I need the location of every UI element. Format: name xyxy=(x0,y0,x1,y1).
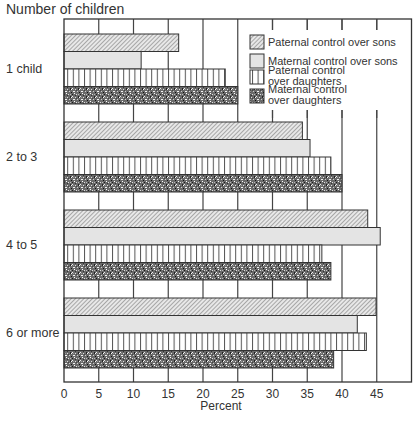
legend-swatch xyxy=(250,89,264,103)
bar xyxy=(64,210,368,228)
bar xyxy=(64,157,331,175)
y-tick-label: 2 to 3 xyxy=(6,150,37,164)
legend-label: over daughters xyxy=(268,94,342,106)
bar xyxy=(64,351,334,369)
legend-swatch xyxy=(250,70,264,84)
bar xyxy=(64,298,376,316)
x-tick-label: 10 xyxy=(127,387,141,401)
x-tick-label: 30 xyxy=(266,387,280,401)
x-tick-label: 5 xyxy=(95,387,102,401)
bar xyxy=(64,263,331,281)
legend: Paternal control over sonsMaternal contr… xyxy=(246,19,410,118)
bar xyxy=(64,52,141,70)
bar xyxy=(64,122,302,140)
x-axis-label: Percent xyxy=(200,399,242,413)
y-tick-label: 4 to 5 xyxy=(6,238,37,252)
bar xyxy=(64,87,238,105)
y-tick-label: 6 or more xyxy=(6,326,60,340)
x-tick-label: 15 xyxy=(162,387,176,401)
x-tick-label: 0 xyxy=(61,387,68,401)
bar xyxy=(64,228,380,246)
x-tick-label: 40 xyxy=(335,387,349,401)
y-axis-labels: 1 child2 to 34 to 56 or more xyxy=(6,62,60,340)
bar xyxy=(64,140,310,158)
bar xyxy=(64,69,225,87)
legend-swatch xyxy=(250,35,264,49)
x-tick-label: 45 xyxy=(370,387,384,401)
legend-label: Paternal control over sons xyxy=(268,36,396,48)
bar xyxy=(64,175,342,193)
bar xyxy=(64,34,179,52)
bar xyxy=(64,245,322,263)
bar xyxy=(64,316,357,334)
legend-swatch xyxy=(250,54,264,68)
bar-chart: 1 child2 to 34 to 56 or more 05101520253… xyxy=(0,0,419,422)
y-tick-label: 1 child xyxy=(6,62,42,76)
x-tick-label: 35 xyxy=(301,387,315,401)
bar xyxy=(64,333,366,351)
